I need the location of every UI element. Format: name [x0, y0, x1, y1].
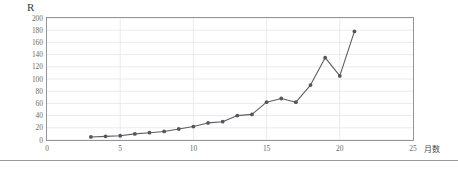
data-point-markers: [89, 30, 356, 139]
data-point-marker: [323, 56, 327, 60]
data-point-marker: [353, 30, 357, 34]
y-tick-label: 40: [36, 111, 44, 120]
horizontal-gridlines: [47, 18, 413, 140]
data-point-marker: [133, 132, 137, 136]
x-tick-label: 15: [263, 144, 271, 153]
x-tick-label: 25: [409, 144, 417, 153]
y-tick-label: 100: [32, 75, 43, 84]
y-tick-label: 0: [39, 136, 43, 145]
data-point-marker: [338, 74, 342, 78]
bottom-divider: [0, 160, 458, 161]
data-point-marker: [104, 134, 108, 138]
x-tick-label: 5: [118, 144, 122, 153]
line-chart-plot: 020406080100120140160180200 0510152025 月…: [0, 0, 458, 170]
data-point-marker: [235, 114, 239, 118]
y-tick-label: 20: [36, 123, 44, 132]
x-tick-label: 20: [336, 144, 344, 153]
data-point-marker: [162, 130, 166, 134]
y-tick-label: 80: [36, 87, 44, 96]
y-tick-label: 120: [32, 62, 43, 71]
y-tick-label: 140: [32, 50, 43, 59]
data-point-marker: [192, 125, 196, 129]
y-tick-label: 180: [32, 26, 43, 35]
x-tick-label: 0: [45, 144, 49, 153]
data-point-marker: [118, 134, 122, 138]
data-point-marker: [250, 112, 254, 116]
data-point-marker: [279, 97, 283, 101]
y-tick-label: 160: [32, 38, 43, 47]
chart-container: R 020406080100120140160180200 0510152025…: [0, 0, 458, 170]
data-point-marker: [294, 100, 298, 104]
data-point-marker: [309, 83, 313, 87]
data-point-marker: [89, 135, 93, 139]
y-tick-label: 200: [32, 14, 43, 23]
data-point-marker: [148, 131, 152, 135]
data-point-marker: [221, 120, 225, 124]
x-axis-tick-labels: 0510152025: [45, 144, 417, 153]
x-tick-label: 10: [190, 144, 198, 153]
y-tick-label: 60: [36, 99, 44, 108]
data-point-marker: [177, 127, 181, 131]
data-point-marker: [265, 100, 269, 104]
data-point-marker: [206, 121, 210, 125]
x-axis-label: 月数: [424, 144, 440, 154]
y-axis-tick-labels: 020406080100120140160180200: [32, 14, 43, 145]
